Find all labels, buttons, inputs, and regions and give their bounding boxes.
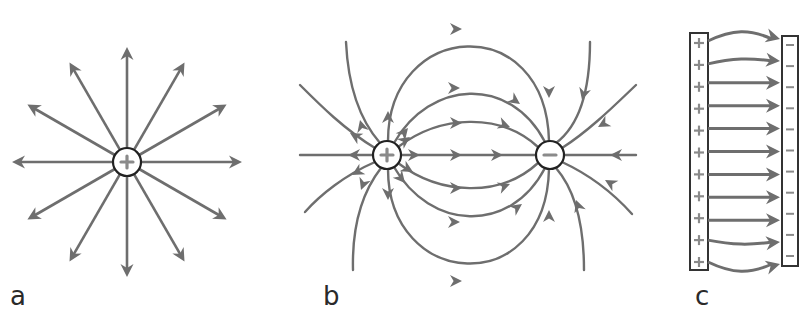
arrowhead-icon (24, 99, 42, 117)
arrowhead-icon (450, 23, 462, 35)
arrowhead-icon (64, 247, 82, 265)
panel-a-point-charge (12, 47, 242, 277)
panel-label-b: b (323, 283, 340, 309)
arrowhead-icon (172, 59, 190, 77)
negative-charge (536, 141, 564, 169)
field-line (134, 68, 182, 150)
arrowhead-icon (448, 216, 460, 228)
electric-field-diagram (0, 0, 810, 323)
field-line (73, 174, 121, 256)
arrowhead-icon (24, 207, 42, 225)
field-line (708, 262, 772, 271)
arrowhead-icon (450, 182, 462, 194)
arrowhead-icon (595, 116, 611, 132)
field-line-top-inner (398, 122, 538, 147)
field-line (134, 174, 182, 256)
field-line-plus-downleft (305, 162, 375, 212)
arrowhead-icon (543, 86, 555, 98)
field-line (708, 32, 772, 41)
field-line (139, 108, 221, 156)
panel-label-c: c (695, 283, 709, 309)
panel-label-a: a (10, 283, 26, 309)
arrowhead-icon (349, 164, 365, 180)
arrowhead-icon (212, 207, 230, 225)
field-line (708, 240, 772, 244)
arrowhead-icon (448, 82, 460, 94)
panel-c-capacitor (690, 29, 798, 275)
arrowhead-icon (543, 210, 555, 222)
arrowhead-icon (172, 247, 190, 265)
field-line (33, 108, 115, 156)
field-line-minus-down (556, 168, 584, 270)
positive-charge (373, 141, 401, 169)
positive-charge (113, 148, 141, 176)
arrowhead-icon (64, 59, 82, 77)
field-line-minus-upright (562, 85, 636, 148)
field-line (708, 59, 772, 64)
field-line (33, 169, 115, 217)
arrowhead-icon (212, 99, 230, 117)
field-line-minus-downright (562, 162, 632, 214)
field-line (73, 68, 121, 150)
field-line-bottom-inner (398, 163, 538, 188)
field-line (139, 169, 221, 217)
arrowhead-icon (450, 275, 462, 287)
